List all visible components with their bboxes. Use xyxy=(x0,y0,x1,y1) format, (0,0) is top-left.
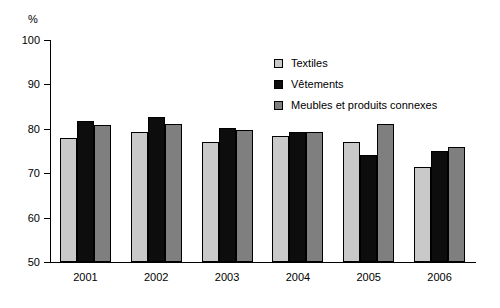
bar xyxy=(94,125,111,262)
x-axis-line xyxy=(50,262,476,263)
y-axis-tick-label: 60 xyxy=(10,213,40,224)
legend-item-label: Meubles et produits connexes xyxy=(291,100,437,111)
bar xyxy=(448,147,465,262)
x-axis-label: 2006 xyxy=(404,272,475,283)
bar xyxy=(377,124,394,262)
bar-group xyxy=(121,40,192,262)
x-axis-label: 2002 xyxy=(121,272,192,283)
y-axis-tick-label: 80 xyxy=(10,124,40,135)
legend-item-label: Vêtements xyxy=(291,79,344,90)
legend: TextilesVêtementsMeubles et produits con… xyxy=(274,53,437,116)
x-axis-label: 2003 xyxy=(192,272,263,283)
bar xyxy=(289,132,306,262)
x-axis-label: 2005 xyxy=(333,272,404,283)
legend-swatch-icon xyxy=(274,101,283,110)
bar xyxy=(77,121,94,262)
x-axis-label: 2001 xyxy=(50,272,121,283)
bar xyxy=(148,117,165,262)
y-axis-tick-label: 90 xyxy=(10,79,40,90)
bar xyxy=(165,124,182,262)
bar xyxy=(306,132,323,262)
bar-group xyxy=(192,40,263,262)
y-axis-tick-label: 50 xyxy=(10,257,40,268)
bar xyxy=(431,151,448,262)
legend-item[interactable]: Textiles xyxy=(274,53,437,74)
bar xyxy=(343,142,360,262)
bar-chart: % 1009080706050 200120022003200420052006… xyxy=(0,0,500,308)
bar xyxy=(360,155,377,262)
bar xyxy=(131,132,148,262)
legend-swatch-icon xyxy=(274,80,283,89)
legend-item-label: Textiles xyxy=(291,58,328,69)
bar xyxy=(414,167,431,262)
y-axis-tick xyxy=(44,262,50,263)
x-axis-label: 2004 xyxy=(263,272,334,283)
bar xyxy=(60,138,77,262)
y-axis-tick-label: 100 xyxy=(10,35,40,46)
y-axis-unit-label: % xyxy=(28,14,38,25)
bar xyxy=(272,136,289,262)
legend-item[interactable]: Meubles et produits connexes xyxy=(274,95,437,116)
bar xyxy=(219,128,236,262)
legend-item[interactable]: Vêtements xyxy=(274,74,437,95)
bar-group xyxy=(50,40,121,262)
bar xyxy=(236,130,253,262)
y-axis-tick-label: 70 xyxy=(10,168,40,179)
legend-swatch-icon xyxy=(274,59,283,68)
bar xyxy=(202,142,219,262)
